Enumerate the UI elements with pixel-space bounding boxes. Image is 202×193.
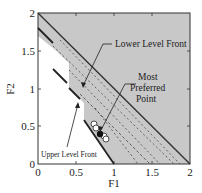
y-tick-1: 1 bbox=[30, 83, 36, 95]
upper-front-arrow bbox=[67, 104, 78, 147]
x-tick-0.5: 0.5 bbox=[69, 166, 83, 178]
y-tick-0.5: 0.5 bbox=[21, 120, 35, 132]
x-tick-0: 0 bbox=[35, 166, 41, 178]
most-preferred-label-1: Most bbox=[138, 72, 158, 82]
upper-level-front-seg2 bbox=[53, 69, 67, 83]
most-preferred-label-3: Point bbox=[136, 94, 156, 104]
lower-front-label: Lower Level Front bbox=[115, 39, 187, 49]
pareto-front-chart: Lower Level Front Most Preferred Point U… bbox=[0, 0, 202, 193]
upper-front-label: Upper Level Front bbox=[41, 150, 98, 159]
y-axis-label: F2 bbox=[4, 83, 16, 95]
x-tick-1.5: 1.5 bbox=[145, 166, 159, 178]
y-tick-1.5: 1.5 bbox=[21, 45, 35, 57]
y-tick-2: 2 bbox=[30, 7, 36, 19]
upper-front-arrowhead bbox=[75, 102, 80, 108]
solution-point bbox=[93, 125, 99, 131]
x-tick-2: 2 bbox=[187, 166, 193, 178]
x-axis-label: F1 bbox=[108, 177, 120, 189]
y-tick-0: 0 bbox=[30, 158, 36, 170]
most-preferred-label-2: Preferred bbox=[130, 83, 166, 93]
solution-point bbox=[103, 136, 109, 142]
